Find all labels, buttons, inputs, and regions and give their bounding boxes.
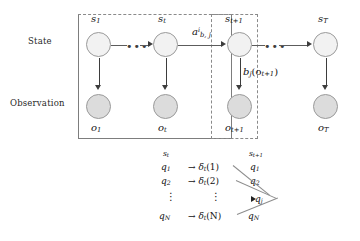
emission-arrowhead-oT xyxy=(322,85,328,90)
trellis-right-qN: qN xyxy=(248,211,259,221)
transition-line-s1-dots xyxy=(111,45,127,46)
trellis-arrow-2: → xyxy=(188,176,196,186)
observation-node-o1 xyxy=(86,94,111,119)
state-label-s1: s1 xyxy=(91,13,100,25)
state-label-st1-sub: t+1 xyxy=(230,17,243,25)
emission-line-st1-ot1 xyxy=(240,58,241,86)
state-label-sT: sT xyxy=(318,13,328,25)
transition-line-dots-st xyxy=(140,45,148,46)
observation-label-ot1: ot+1 xyxy=(225,122,244,134)
trellis-delta-row-2: → δt(2) xyxy=(188,176,219,186)
trellis-target-qj: qj xyxy=(255,194,263,204)
state-node-st1 xyxy=(227,32,252,57)
emission-line-s1-o1 xyxy=(99,58,100,86)
state-label-st1: st+1 xyxy=(225,13,243,25)
transition-ellipsis-1: ••• xyxy=(126,41,148,52)
hmm-trellis-figure: State Observation s1 st st+1 sT o1 ot ot… xyxy=(0,0,360,241)
transition-ellipsis-2: ••• xyxy=(264,41,286,52)
trellis-delta-row-1: → δt(1) xyxy=(188,162,219,172)
trellis-left-q1: q1 xyxy=(161,162,171,172)
trellis-delta-2-arg: (2) xyxy=(206,176,219,186)
observation-node-oT xyxy=(313,94,338,119)
observation-label-o1: o1 xyxy=(91,122,101,134)
observation-label-ot1-sub: t+1 xyxy=(231,126,244,134)
emission-line-st-ot xyxy=(166,58,167,86)
trellis-left-q2-sub: 2 xyxy=(167,179,171,186)
observation-label-o1-sub: 1 xyxy=(97,126,101,134)
row-label-observation: Observation xyxy=(10,98,65,108)
trellis-delta-1-arg: (1) xyxy=(206,162,219,172)
trellis-arrow-1: → xyxy=(188,162,196,172)
transition-line-dots-sT xyxy=(279,45,308,46)
observation-node-ot xyxy=(153,94,178,119)
row-label-state: State xyxy=(28,36,52,46)
trellis-header-right: st+1 xyxy=(249,149,263,158)
emission-arrowhead-o1 xyxy=(95,85,101,90)
emission-probability-label: bj(ot+1) xyxy=(243,66,278,78)
state-node-sT xyxy=(313,32,338,57)
trellis-header-left: st xyxy=(163,149,169,158)
trellis-right-qN-sub: N xyxy=(254,214,259,221)
trellis-vdots-mid: ⋮ xyxy=(211,192,221,202)
trellis-header-right-sub: t+1 xyxy=(253,152,263,158)
state-label-st: st xyxy=(158,13,166,25)
trellis-delta-N-arg: (N) xyxy=(206,211,221,221)
emission-arrowhead-ot1 xyxy=(236,85,242,90)
emission-label-arg-sub: t+1 xyxy=(261,70,274,78)
trellis-left-qN-sub: N xyxy=(165,214,170,221)
state-label-st-sub: t xyxy=(163,17,166,25)
observation-label-oT-sub: T xyxy=(324,126,329,134)
emission-arrowhead-ot xyxy=(162,85,168,90)
observation-label-ot-sub: t xyxy=(164,126,167,134)
emission-line-sT-oT xyxy=(326,58,327,86)
trellis-right-q1: q1 xyxy=(250,162,260,172)
transition-arrowhead-st1 xyxy=(221,41,226,47)
transition-label-sub: b, j xyxy=(200,31,211,39)
emission-label-open: (o xyxy=(252,66,262,77)
emission-label-close: ) xyxy=(274,66,278,77)
transition-arrowhead-st xyxy=(148,41,153,47)
transition-line-st-st1 xyxy=(178,45,222,46)
outer-plate-dashed-top xyxy=(78,14,232,15)
observation-label-ot: ot xyxy=(158,122,167,134)
observation-node-ot1 xyxy=(227,94,252,119)
transition-probability-label: aib, j xyxy=(192,26,211,39)
trellis-arrow-N: → xyxy=(188,211,196,221)
transition-arrowhead-sT xyxy=(307,41,312,47)
state-node-s1 xyxy=(86,32,111,57)
trellis-target-qj-sub: j xyxy=(261,197,263,204)
trellis-left-qN: qN xyxy=(159,211,170,221)
trellis-vdots-left: ⋮ xyxy=(166,192,176,202)
trellis-left-q1-sub: 1 xyxy=(167,165,171,172)
state-label-s1-sub: 1 xyxy=(96,17,100,25)
trellis-header-left-sub: t xyxy=(167,152,169,158)
trellis-right-q1-sub: 1 xyxy=(256,165,260,172)
state-label-sT-sub: T xyxy=(323,17,328,25)
state-node-st xyxy=(153,32,178,57)
observation-label-oT: oT xyxy=(318,122,329,134)
trellis-delta-row-N: → δt(N) xyxy=(188,211,221,221)
trellis-left-q2: q2 xyxy=(161,176,171,186)
